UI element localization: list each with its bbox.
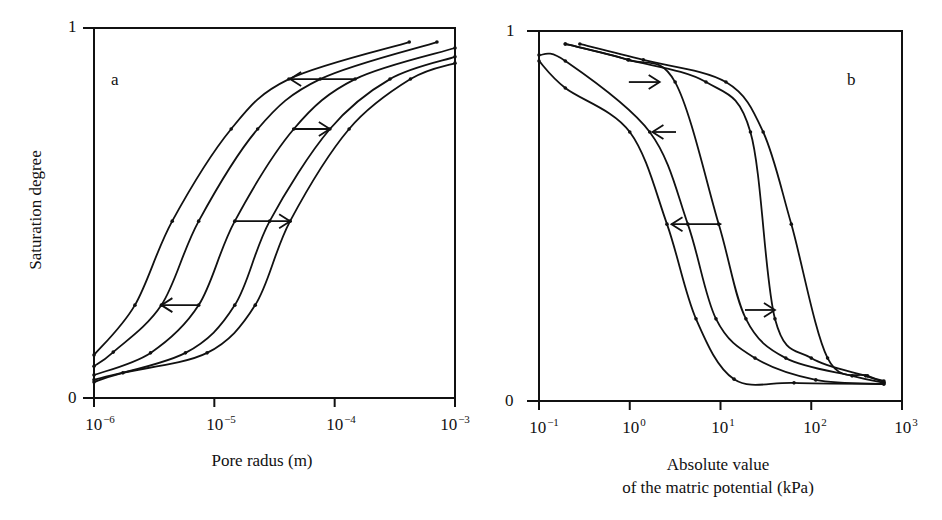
- data-point: [407, 40, 411, 44]
- data-point: [121, 371, 125, 375]
- data-point: [665, 222, 669, 226]
- data-point: [388, 77, 392, 81]
- data-point: [628, 130, 632, 134]
- data-point: [253, 303, 257, 307]
- data-point: [133, 303, 137, 307]
- data-point: [724, 80, 728, 84]
- data-point: [789, 222, 793, 226]
- data-point: [537, 53, 541, 57]
- panel-b-x-axis-label-line1: Absolute value: [667, 455, 769, 475]
- data-point: [184, 351, 188, 355]
- data-point: [564, 42, 568, 46]
- data-point: [92, 380, 96, 384]
- chart-canvas: [0, 0, 942, 520]
- curve-4: [565, 44, 883, 382]
- data-point: [435, 40, 439, 44]
- y-axis-label: Saturation degree: [26, 150, 46, 269]
- data-point: [170, 219, 174, 223]
- data-point: [92, 353, 96, 357]
- data-point: [753, 356, 757, 360]
- data-point: [704, 80, 708, 84]
- data-point: [347, 127, 351, 131]
- data-point: [826, 356, 830, 360]
- panel-b-xtick-2: 101: [711, 416, 735, 438]
- data-point: [809, 356, 813, 360]
- data-point: [578, 42, 582, 46]
- data-point: [92, 373, 96, 377]
- data-point: [453, 55, 457, 59]
- panel-a-ytick-1: 1: [68, 17, 77, 37]
- panel-a-x-axis-label: Pore radus (m): [211, 451, 312, 471]
- data-point: [761, 130, 765, 134]
- data-point: [732, 377, 736, 381]
- data-point: [714, 317, 718, 321]
- panel-b-xtick-3: 102: [803, 416, 827, 438]
- data-point: [453, 46, 457, 50]
- panel-b-xtick-0: 10−1: [529, 416, 559, 438]
- data-point: [256, 127, 260, 131]
- data-point: [564, 86, 568, 90]
- data-point: [773, 317, 777, 321]
- data-point: [792, 381, 796, 385]
- curve-2: [94, 42, 437, 366]
- data-point: [537, 59, 541, 63]
- data-point: [866, 374, 870, 378]
- curve-4: [94, 57, 455, 380]
- curve-5: [580, 44, 884, 381]
- panel-b-letter: b: [847, 70, 856, 90]
- data-point: [814, 378, 818, 382]
- panel-a-xtick-1: 10−5: [206, 413, 236, 435]
- data-point: [149, 351, 153, 355]
- data-point: [564, 59, 568, 63]
- data-point: [197, 219, 201, 223]
- data-point: [233, 303, 237, 307]
- data-point: [111, 350, 115, 354]
- data-point: [784, 356, 788, 360]
- panel-b-xtick-4: 103: [894, 416, 918, 438]
- panel-b-plot: [527, 31, 902, 410]
- data-point: [229, 127, 233, 131]
- data-point: [882, 379, 886, 383]
- curve-1: [94, 42, 409, 355]
- data-point: [409, 77, 413, 81]
- data-point: [453, 61, 457, 65]
- data-point: [205, 351, 209, 355]
- panel-b-xtick-1: 100: [622, 416, 646, 438]
- panel-a-xtick-3: 10−3: [440, 413, 470, 435]
- panel-b-x-axis-label-line2: of the matric potential (kPa): [622, 478, 814, 498]
- data-point: [694, 317, 698, 321]
- panel-b-ytick-0: 0: [505, 391, 514, 411]
- panel-a-xtick-0: 10−6: [85, 413, 115, 435]
- data-point: [673, 80, 677, 84]
- curve-1: [539, 61, 884, 385]
- panel-b-ytick-1: 1: [506, 21, 515, 41]
- data-point: [642, 58, 646, 62]
- panel-a-xtick-2: 10−4: [326, 413, 356, 435]
- panel-a-letter: a: [111, 70, 119, 90]
- panel-a-ytick-0: 0: [68, 388, 77, 408]
- panel-a-plot: [83, 28, 457, 407]
- data-point: [749, 130, 753, 134]
- data-point: [92, 364, 96, 368]
- data-point: [627, 58, 631, 62]
- data-point: [744, 317, 748, 321]
